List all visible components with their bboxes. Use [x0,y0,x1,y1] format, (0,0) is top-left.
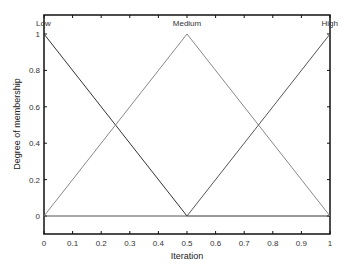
y-tick-label: 0.4 [29,139,41,148]
axes-frame [44,15,330,234]
x-tick-label: 1 [328,239,333,248]
x-tick-label: 0.8 [267,239,279,248]
y-tick-label: 0.6 [29,103,41,112]
y-tick-label: 0.2 [29,176,41,185]
x-tick-label: 0.6 [210,239,222,248]
series-lines [44,34,330,216]
series-line-medium [44,34,330,216]
membership-chart: 00.10.20.30.40.50.60.70.80.91 00.20.40.6… [0,0,351,272]
y-tick-label: 0.8 [29,66,41,75]
series-line-low [44,34,330,216]
x-tick-label: 0.2 [96,239,108,248]
series-label-low: Low [36,19,51,28]
x-tick-label: 0.9 [296,239,308,248]
x-tick-label: 0.1 [67,239,79,248]
series-labels: LowMediumHigh [36,19,338,28]
x-tick-label: 0.3 [124,239,136,248]
plot-area [44,15,330,234]
series-label-medium: Medium [173,19,202,28]
x-tick-label: 0.5 [181,239,193,248]
y-tick-label: 1 [36,30,41,39]
x-tick-label: 0 [42,239,47,248]
y-axis-ticks: 00.20.40.60.81 [29,30,330,221]
x-tick-label: 0.4 [153,239,165,248]
series-line-high [44,34,330,216]
y-tick-label: 0 [36,212,41,221]
y-axis-label: Degree of membership [12,78,22,170]
x-tick-label: 0.7 [239,239,251,248]
series-label-high: High [322,19,338,28]
x-axis-label: Iteration [171,251,204,261]
x-axis-ticks: 00.10.20.30.40.50.60.70.80.91 [42,15,333,248]
